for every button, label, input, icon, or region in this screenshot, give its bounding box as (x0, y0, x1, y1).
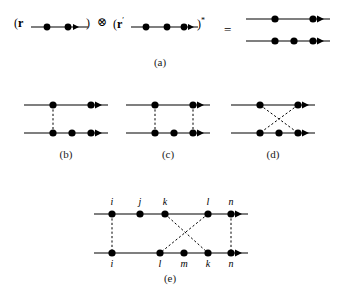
site-label-bottom-i: i (104, 258, 120, 269)
equals-sign: = (224, 22, 231, 38)
site-label-top-k: k (157, 196, 173, 207)
site-label-bottom-m: m (176, 258, 192, 269)
arrow-head-icon (235, 211, 242, 218)
panel-a-close-right-paren: )* (197, 16, 205, 32)
panel-a-right-propagator (131, 24, 198, 31)
vertex-dot (44, 24, 51, 31)
vertex-dot (65, 24, 72, 31)
vertex-dot (271, 37, 278, 44)
arrow-head-icon (302, 130, 309, 137)
site-label-top-l: l (200, 196, 216, 207)
panel-a-left-propagator (31, 24, 88, 31)
vertex-dot (294, 129, 301, 136)
arrow-head-icon (73, 24, 79, 30)
vertex-dot (87, 101, 94, 108)
interaction-line-dashed (165, 214, 208, 253)
vertex-dot (87, 129, 94, 136)
arrow-head-icon (188, 24, 194, 30)
vertex-dot (309, 37, 316, 44)
panel-e-graphics (94, 210, 248, 256)
figure-diagram-set: (r (0, 0, 337, 299)
vertex-dot (143, 24, 150, 31)
close-paren: ) (86, 16, 90, 30)
site-label-top-i: i (104, 196, 120, 207)
site-label-top-j: j (132, 196, 148, 207)
vertex-dot (256, 129, 263, 136)
vertex-dot (68, 129, 75, 136)
panel-label-d: (d) (253, 148, 293, 160)
site-label-bottom-n: n (223, 258, 239, 269)
panel-b-graphics (24, 101, 108, 136)
vertex-dot (170, 129, 177, 136)
arrow-head-icon (95, 102, 102, 109)
site-label-bottom-l: l (152, 258, 168, 269)
vertex-dot (181, 24, 188, 31)
panel-label-b: (b) (46, 148, 86, 160)
arrow-head-icon (95, 130, 102, 137)
site-label-top-n: n (223, 196, 239, 207)
panel-a-result-top-line (246, 15, 330, 22)
vertex-dot (180, 249, 187, 256)
arrow-head-icon (197, 130, 204, 137)
panel-a-result-bottom-line (246, 37, 330, 44)
prime-symbol: ′ (122, 16, 124, 25)
panel-label-e: (e) (150, 272, 190, 284)
site-label-bottom-k: k (200, 258, 216, 269)
panel-c-graphics (126, 101, 210, 136)
panel-a-close-left-paren: ) (86, 16, 90, 31)
arrow-head-icon (235, 250, 242, 257)
vertex-dot (290, 37, 297, 44)
vertex-dot (136, 210, 143, 217)
conjugate-star: * (201, 16, 205, 25)
panel-d-graphics (231, 101, 315, 136)
vertex-dot (275, 129, 282, 136)
panel-a-right-term-head: (r′ (113, 16, 124, 32)
arrow-head-icon (317, 16, 324, 23)
arrow-head-icon (317, 38, 324, 45)
interaction-line-dashed (160, 214, 208, 253)
panel-label-c: (c) (148, 148, 188, 160)
vertex-dot (164, 24, 171, 31)
arrow-head-icon (197, 102, 204, 109)
vertex-dot (309, 15, 316, 22)
arrow-head-icon (302, 102, 309, 109)
tensor-product-symbol: ⊗ (97, 15, 107, 30)
vertex-dot (271, 15, 278, 22)
panel-label-a: (a) (140, 56, 180, 68)
